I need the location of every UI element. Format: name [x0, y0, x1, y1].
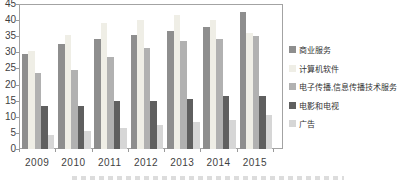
x-tick-label: 2010 — [53, 157, 93, 168]
x-tick-mark — [128, 149, 129, 152]
bar-group-2009 — [20, 5, 56, 149]
legend-item-computer-software: 计算机软件 — [289, 63, 403, 74]
y-tick-label: 0 — [0, 144, 16, 154]
legend-label-advertising: 广告 — [299, 118, 315, 129]
x-tick-mark — [273, 149, 274, 152]
y-tick-mark — [16, 85, 19, 86]
y-tick-label: 15 — [0, 96, 16, 106]
bar-series4-2012 — [157, 125, 164, 149]
y-tick-label: 45 — [0, 0, 16, 9]
y-tick-label: 5 — [0, 128, 16, 138]
legend-swatch-business-services — [289, 46, 296, 53]
y-tick-mark — [16, 4, 19, 5]
y-tick-label: 35 — [0, 31, 16, 41]
y-tick-mark — [16, 52, 19, 53]
y-tick-label: 40 — [0, 15, 16, 25]
legend-swatch-film-and-tv — [289, 102, 296, 109]
bar-group-2015 — [238, 5, 274, 149]
x-tick-mark — [55, 149, 56, 152]
bar-group-2011 — [93, 5, 129, 149]
legend-item-electronic-communication: 电子传播,信息传播技术服务 — [289, 81, 403, 92]
legend-label-film-and-tv: 电影和电视 — [299, 100, 339, 111]
bar-series4-2014 — [229, 120, 236, 149]
x-tick-mark — [200, 149, 201, 152]
legend-item-film-and-tv: 电影和电视 — [289, 100, 403, 111]
y-tick-mark — [16, 133, 19, 134]
bar-group-2010 — [56, 5, 92, 149]
legend-swatch-computer-software — [289, 65, 296, 72]
x-tick-mark — [237, 149, 238, 152]
cropped-caption-text — [72, 176, 344, 180]
bar-series4-2010 — [84, 131, 91, 149]
bar-group-2012 — [129, 5, 165, 149]
bar-group-2013 — [165, 5, 201, 149]
y-tick-label: 30 — [0, 47, 16, 57]
y-tick-mark — [16, 117, 19, 118]
legend: 商业服务 计算机软件 电子传播,信息传播技术服务 电影和电视 广告 — [289, 44, 403, 137]
bar-series4-2009 — [48, 135, 55, 150]
x-tick-mark — [92, 149, 93, 152]
y-axis: 454035302520151050 — [0, 4, 16, 149]
x-tick-mark — [164, 149, 165, 152]
y-tick-mark — [16, 68, 19, 69]
legend-label-business-services: 商业服务 — [299, 44, 331, 55]
legend-label-electronic-communication: 电子传播,信息传播技术服务 — [299, 81, 397, 92]
bars-canvas — [20, 5, 274, 149]
x-tick-label: 2012 — [126, 157, 166, 168]
legend-swatch-electronic-communication — [289, 83, 296, 90]
legend-item-advertising: 广告 — [289, 118, 403, 129]
x-tick-mark — [19, 149, 20, 152]
y-tick-label: 20 — [0, 80, 16, 90]
x-tick-label: 2011 — [90, 157, 130, 168]
y-tick-mark — [16, 20, 19, 21]
x-tick-label: 2015 — [235, 157, 275, 168]
legend-label-computer-software: 计算机软件 — [299, 63, 339, 74]
bar-series4-2013 — [193, 122, 200, 149]
bar-series4-2015 — [266, 115, 273, 149]
y-tick-mark — [16, 101, 19, 102]
y-tick-label: 10 — [0, 112, 16, 122]
legend-item-business-services: 商业服务 — [289, 44, 403, 55]
bar-group-2014 — [201, 5, 237, 149]
x-tick-label: 2013 — [162, 157, 202, 168]
y-tick-mark — [16, 36, 19, 37]
legend-swatch-advertising — [289, 120, 296, 127]
x-tick-label: 2009 — [17, 157, 57, 168]
x-tick-label: 2014 — [199, 157, 239, 168]
bar-chart-figure: 454035302520151050 200920102011201220132… — [0, 0, 403, 180]
bar-series4-2011 — [120, 128, 127, 149]
y-tick-label: 25 — [0, 63, 16, 73]
